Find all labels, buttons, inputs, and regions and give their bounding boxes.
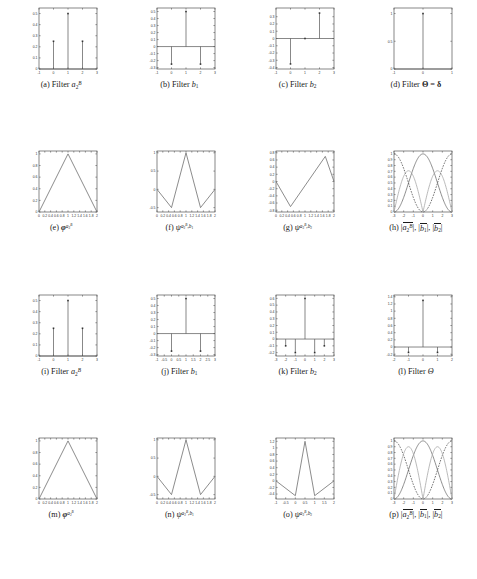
- svg-text:0.6: 0.6: [291, 214, 296, 218]
- svg-text:1: 1: [304, 71, 306, 75]
- caption-e: (e) φa2B: [50, 223, 72, 233]
- svg-text:0.4: 0.4: [33, 23, 38, 27]
- svg-text:0: 0: [272, 337, 274, 341]
- svg-text:0: 0: [156, 214, 158, 218]
- svg-text:0.4: 0.4: [151, 17, 156, 21]
- plot-area-c: -10123-0.4-0.3-0.2-0.100.10.20.3: [239, 4, 357, 78]
- svg-text:0.8: 0.8: [388, 316, 393, 320]
- svg-text:0: 0: [171, 357, 173, 361]
- caption-d: (d) Filter Θ = δ: [390, 80, 441, 89]
- svg-text:0: 0: [304, 357, 306, 361]
- panel-h: -3-2-1012300.10.20.30.40.50.60.70.80.91(…: [357, 147, 475, 290]
- svg-text:0: 0: [390, 345, 392, 349]
- svg-text:-1: -1: [274, 500, 277, 504]
- svg-text:0.6: 0.6: [269, 159, 274, 163]
- svg-text:0.4: 0.4: [167, 214, 172, 218]
- svg-text:0: 0: [294, 500, 296, 504]
- svg-text:-1: -1: [392, 71, 395, 75]
- svg-text:1: 1: [451, 71, 453, 75]
- svg-text:2: 2: [318, 71, 320, 75]
- svg-text:-0.2: -0.2: [268, 350, 274, 354]
- svg-text:0: 0: [36, 211, 38, 215]
- svg-text:1: 1: [36, 152, 38, 156]
- svg-text:0.5: 0.5: [151, 296, 156, 300]
- plot-a: -1012300.10.20.30.40.5: [22, 4, 100, 78]
- svg-text:1.2: 1.2: [269, 439, 274, 443]
- svg-text:1.2: 1.2: [72, 214, 77, 218]
- svg-text:-0.2: -0.2: [386, 352, 392, 356]
- svg-text:0.5: 0.5: [269, 303, 274, 307]
- svg-text:0.1: 0.1: [151, 324, 156, 328]
- panel-m: 00.20.40.60.811.21.41.61.8200.20.40.60.8…: [2, 434, 120, 577]
- svg-text:1.4: 1.4: [314, 214, 319, 218]
- svg-text:1.8: 1.8: [207, 214, 212, 218]
- caption-n: (n) ψa2B,b1: [165, 510, 194, 520]
- svg-text:-1: -1: [293, 357, 296, 361]
- svg-text:0.4: 0.4: [48, 214, 53, 218]
- svg-text:-0.4: -0.4: [268, 492, 274, 496]
- svg-text:1: 1: [313, 500, 315, 504]
- svg-text:-0.5: -0.5: [150, 206, 156, 210]
- svg-text:-1: -1: [412, 500, 415, 504]
- panel-p: -3-2-1012300.10.20.30.40.50.60.70.80.91(…: [357, 434, 475, 577]
- svg-text:0.2: 0.2: [43, 500, 48, 504]
- svg-text:1: 1: [185, 214, 187, 218]
- svg-text:1: 1: [67, 214, 69, 218]
- svg-text:0.2: 0.2: [269, 173, 274, 177]
- svg-text:0: 0: [390, 497, 392, 501]
- svg-text:0.7: 0.7: [388, 456, 393, 460]
- svg-text:-0.5: -0.5: [282, 500, 288, 504]
- panel-o: -1-0.500.511.52-0.4-0.200.20.40.60.811.2…: [239, 434, 357, 577]
- svg-text:-1: -1: [274, 71, 277, 75]
- caption-k: (k) Filter b2: [279, 367, 317, 376]
- svg-text:1.8: 1.8: [207, 500, 212, 504]
- svg-text:0.4: 0.4: [269, 166, 274, 170]
- plot-area-b: -10123-0.3-0.2-0.100.10.20.30.40.5: [120, 4, 238, 78]
- plot-e: 00.20.40.60.811.21.41.61.8200.20.40.60.8…: [22, 147, 100, 221]
- plot-h: -3-2-1012300.10.20.30.40.50.60.70.80.91: [377, 147, 455, 221]
- plot-area-j: -1-0.500.511.522.53-0.3-0.2-0.100.10.20.…: [120, 291, 238, 365]
- plot-area-f: 00.20.40.60.811.21.41.61.82-0.500.51: [120, 147, 238, 221]
- svg-text:1.2: 1.2: [308, 214, 313, 218]
- svg-text:0.5: 0.5: [151, 170, 156, 174]
- svg-text:0.1: 0.1: [388, 491, 393, 495]
- svg-text:-0.4: -0.4: [268, 194, 274, 198]
- svg-text:0.1: 0.1: [33, 343, 38, 347]
- svg-text:0: 0: [275, 214, 277, 218]
- svg-text:0.1: 0.1: [33, 56, 38, 60]
- svg-text:-1: -1: [407, 357, 410, 361]
- plot-area-d: -10100.51: [357, 4, 475, 78]
- svg-text:0.5: 0.5: [302, 500, 307, 504]
- svg-text:0.4: 0.4: [33, 309, 38, 313]
- svg-text:-0.1: -0.1: [150, 338, 156, 342]
- svg-text:3: 3: [333, 357, 335, 361]
- svg-text:0.8: 0.8: [178, 500, 183, 504]
- svg-text:1: 1: [154, 151, 156, 155]
- svg-text:0.8: 0.8: [388, 451, 393, 455]
- svg-text:1.6: 1.6: [201, 500, 206, 504]
- plot-j: -1-0.500.511.522.53-0.3-0.2-0.100.10.20.…: [140, 291, 218, 365]
- svg-text:0: 0: [36, 497, 38, 501]
- svg-text:2: 2: [214, 500, 216, 504]
- svg-text:0: 0: [422, 357, 424, 361]
- svg-text:0: 0: [171, 71, 173, 75]
- svg-text:1.4: 1.4: [388, 295, 393, 299]
- svg-text:1.4: 1.4: [77, 500, 82, 504]
- svg-text:-0.1: -0.1: [268, 44, 274, 48]
- svg-text:3: 3: [451, 500, 453, 504]
- caption-f: (f) ψa2B,b1: [166, 223, 194, 233]
- svg-text:3: 3: [333, 71, 335, 75]
- plot-m: 00.20.40.60.811.21.41.61.8200.20.40.60.8…: [22, 434, 100, 508]
- svg-text:-1: -1: [38, 357, 41, 361]
- svg-text:0: 0: [38, 214, 40, 218]
- svg-text:1: 1: [67, 357, 69, 361]
- caption-a: (a) Filter a2B: [41, 80, 82, 90]
- svg-text:0.6: 0.6: [172, 214, 177, 218]
- svg-text:0.3: 0.3: [269, 317, 274, 321]
- svg-text:2: 2: [82, 71, 84, 75]
- caption-o: (o) ψa2B,b2: [283, 510, 312, 520]
- svg-text:0: 0: [53, 71, 55, 75]
- plot-area-a: -1012300.10.20.30.40.5: [2, 4, 120, 78]
- plot-area-i: -1012300.10.20.30.40.5: [2, 291, 120, 365]
- svg-text:2: 2: [82, 357, 84, 361]
